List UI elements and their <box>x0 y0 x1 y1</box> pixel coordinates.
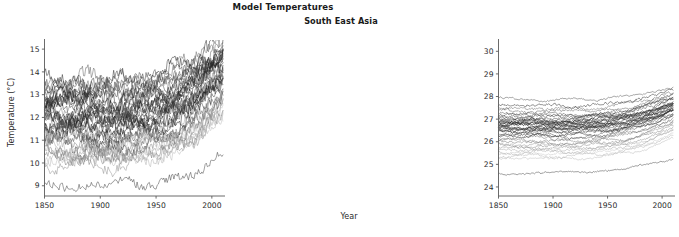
y-tick-label: 15 <box>30 45 40 54</box>
y-tick-label: 11 <box>30 136 40 145</box>
series-line <box>499 159 674 175</box>
y-tick-label: 26 <box>484 137 494 146</box>
plot-area-right: 242526272829301850190019502000 <box>236 0 679 237</box>
y-tick-label: 9 <box>35 181 40 190</box>
x-tick-label: 1900 <box>543 201 562 210</box>
y-tick-label: 14 <box>30 68 40 77</box>
y-tick-label: 29 <box>484 70 494 79</box>
y-tick-label: 28 <box>484 92 494 101</box>
x-tick-label: 1850 <box>35 201 54 210</box>
series-line <box>499 98 674 120</box>
x-tick-label: 2000 <box>202 201 221 210</box>
x-tick-label: 1900 <box>91 201 110 210</box>
plot-clip-top <box>43 0 232 40</box>
y-tick-label: 25 <box>484 160 494 169</box>
x-tick-label: 1950 <box>598 201 617 210</box>
y-tick-label: 10 <box>30 159 40 168</box>
y-tick-label: 30 <box>484 47 494 56</box>
panel-central-north-america: Central North America Temperature (°C) Y… <box>0 0 236 237</box>
panel-south-east-asia: South East Asia Year 2425262728293018501… <box>236 0 446 237</box>
y-tick-label: 13 <box>30 90 40 99</box>
y-tick-label: 27 <box>484 115 494 124</box>
x-tick-label: 1850 <box>489 201 508 210</box>
y-tick-label: 24 <box>484 183 494 192</box>
y-tick-label: 12 <box>30 113 40 122</box>
plot-clip-top <box>497 0 679 40</box>
x-tick-label: 2000 <box>652 201 671 210</box>
x-tick-label: 1950 <box>146 201 165 210</box>
